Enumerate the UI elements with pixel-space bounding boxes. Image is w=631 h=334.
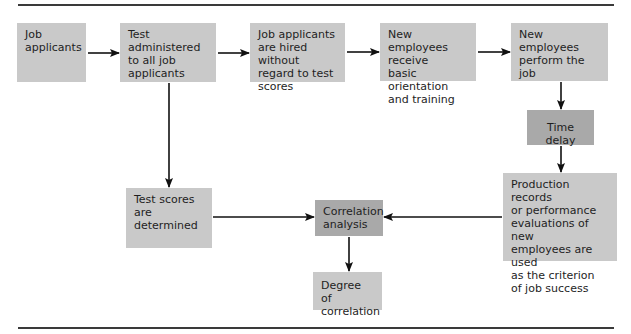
- arrows-layer: [0, 0, 631, 334]
